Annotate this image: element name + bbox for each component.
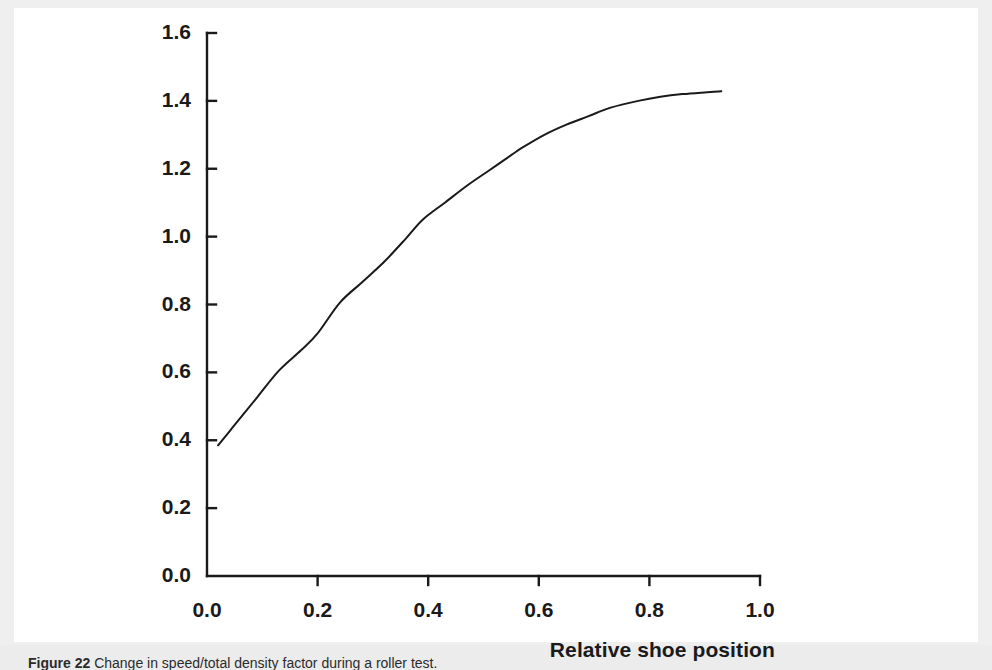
caption-label: Figure 22 xyxy=(28,655,90,670)
figure-caption: Figure 22 Change in speed/total density … xyxy=(28,652,437,670)
data-series-density-factor xyxy=(218,91,721,445)
x-tick-label-0.6: 0.6 xyxy=(513,598,565,622)
y-tick-label-1.0: 1.0 xyxy=(162,224,191,248)
x-tick-label-0.4: 0.4 xyxy=(402,598,454,622)
x-tick-label-0.2: 0.2 xyxy=(292,598,344,622)
chart-figure: 0.00.20.40.60.81.01.21.41.60.00.20.40.60… xyxy=(14,8,978,642)
y-tick-label-0.0: 0.0 xyxy=(162,563,191,587)
caption-body: Change in speed/total density factor dur… xyxy=(94,655,437,670)
y-tick-label-0.6: 0.6 xyxy=(162,359,191,383)
y-tick-label-0.8: 0.8 xyxy=(162,292,191,316)
x-tick-label-0.8: 0.8 xyxy=(623,598,675,622)
y-tick-label-0.2: 0.2 xyxy=(162,495,191,519)
figure-page: 0.00.20.40.60.81.01.21.41.60.00.20.40.60… xyxy=(0,0,992,670)
y-tick-label-0.4: 0.4 xyxy=(162,427,191,451)
y-tick-label-1.6: 1.6 xyxy=(162,20,191,44)
x-tick-label-0.0: 0.0 xyxy=(181,598,233,622)
x-tick-label-1.0: 1.0 xyxy=(734,598,786,622)
y-tick-label-1.2: 1.2 xyxy=(162,156,191,180)
y-tick-label-1.4: 1.4 xyxy=(162,88,191,112)
line-chart-plot xyxy=(14,8,978,642)
x-axis-title: Relative shoe position xyxy=(550,638,775,662)
